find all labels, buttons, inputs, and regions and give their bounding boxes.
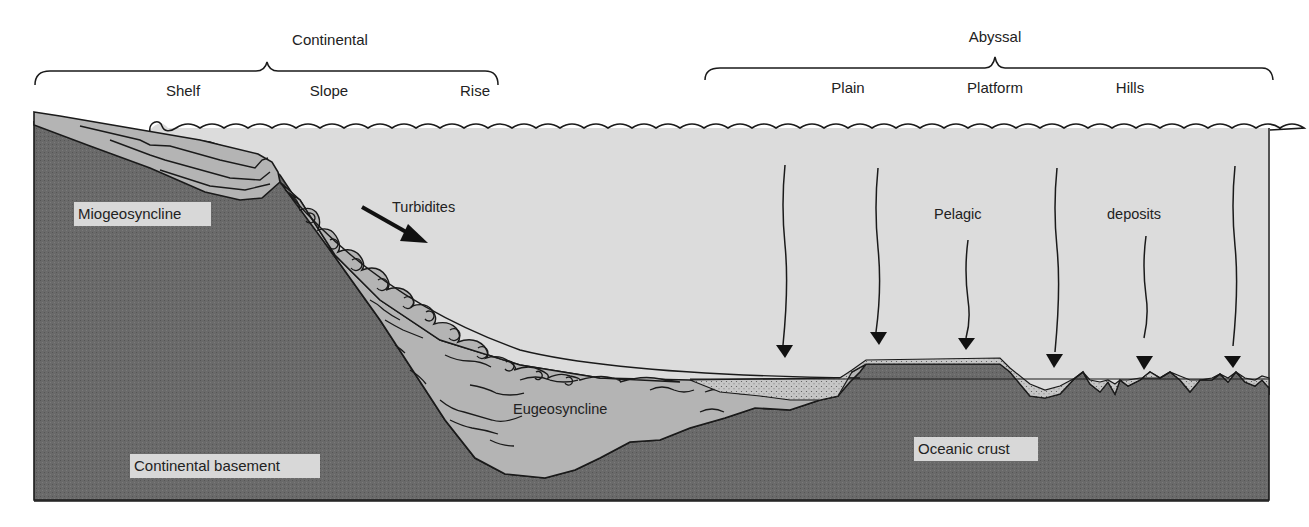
continental-label: Continental: [292, 31, 368, 48]
brace-icon: [705, 57, 1273, 80]
oceanic-crust-label: Oceanic crust: [918, 440, 1011, 457]
slope-label: Slope: [310, 82, 348, 99]
pelagic-label: Pelagic: [934, 206, 982, 222]
turbidites-label: Turbidites: [392, 199, 455, 215]
shelf-label: Shelf: [166, 82, 201, 99]
rise-label: Rise: [460, 82, 490, 99]
eugeosyncline-label: Eugeosyncline: [513, 401, 607, 417]
continental-basement-label: Continental basement: [134, 457, 281, 474]
miogeosyncline-label: Miogeosyncline: [78, 205, 181, 222]
brace-icon: [35, 62, 498, 85]
deposits-label: deposits: [1107, 206, 1161, 222]
geology-cross-section-diagram: Continental Shelf Slope Rise Abyssal Pla…: [0, 0, 1309, 527]
hills-label: Hills: [1116, 79, 1144, 96]
abyssal-label: Abyssal: [969, 28, 1022, 45]
plain-label: Plain: [831, 79, 864, 96]
platform-label: Platform: [967, 79, 1023, 96]
